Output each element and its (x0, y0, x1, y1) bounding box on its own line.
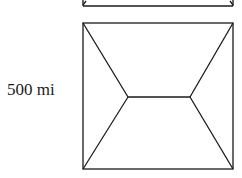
partial-top-square (83, 0, 233, 6)
side-length-label: 500 mi (7, 80, 55, 100)
steiner-edges (83, 23, 233, 169)
city-square (83, 23, 233, 169)
